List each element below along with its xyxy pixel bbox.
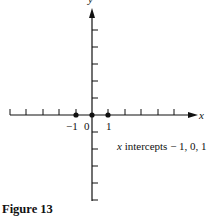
x-axis-label: x [199, 110, 204, 121]
tick-label-minus1: −1 [66, 121, 78, 132]
tick-label-1: 1 [106, 121, 112, 132]
tick-label-0: 0 [84, 121, 90, 132]
intercepts-annotation: x intercepts − 1, 0, 1 [117, 141, 207, 152]
figure-caption: Figure 13 [2, 202, 53, 217]
x-axis-arrow-icon [188, 112, 198, 118]
point-origin [89, 112, 94, 117]
annotation-text: intercepts − 1, 0, 1 [122, 140, 207, 152]
point-x-minus1 [73, 112, 78, 117]
coordinate-plane [0, 0, 219, 218]
y-axis-arrow-icon [89, 8, 95, 18]
y-axis-label: y [88, 0, 93, 5]
point-x-1 [105, 112, 110, 117]
